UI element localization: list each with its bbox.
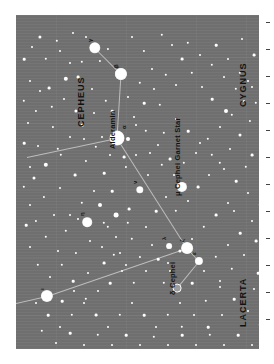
field-star xyxy=(72,32,74,34)
field-star xyxy=(95,314,98,317)
field-star xyxy=(171,44,173,46)
field-star xyxy=(53,214,55,216)
field-star xyxy=(239,134,242,137)
field-star xyxy=(85,298,87,300)
field-star xyxy=(35,302,37,304)
field-star xyxy=(191,72,193,74)
field-star xyxy=(219,126,221,128)
field-star xyxy=(107,226,109,228)
field-star xyxy=(75,252,77,254)
field-star xyxy=(187,200,189,202)
field-star xyxy=(135,154,137,156)
field-star xyxy=(253,288,255,290)
axis-tick xyxy=(266,22,270,23)
field-star xyxy=(161,164,163,166)
field-star xyxy=(231,268,233,270)
field-star xyxy=(37,264,39,266)
field-star xyxy=(131,238,133,240)
field-star xyxy=(33,177,36,180)
star-label-greek: α xyxy=(121,125,127,129)
field-star xyxy=(38,35,41,38)
field-star xyxy=(175,210,177,212)
star-8 xyxy=(41,290,52,301)
field-star xyxy=(215,214,218,217)
field-star xyxy=(211,64,213,66)
axis-tick xyxy=(266,292,270,293)
field-star xyxy=(251,86,253,88)
star-2 xyxy=(115,68,126,79)
field-star xyxy=(119,252,121,254)
field-star xyxy=(109,282,112,285)
field-star xyxy=(253,54,256,57)
star-4 xyxy=(137,187,143,193)
star-label-name: δ Cephei xyxy=(168,262,177,295)
field-star xyxy=(233,210,235,212)
field-star xyxy=(69,62,71,64)
field-star xyxy=(77,218,79,220)
field-star xyxy=(125,334,128,337)
gridline-horizontal xyxy=(16,257,259,258)
field-star xyxy=(223,168,225,170)
field-star xyxy=(63,98,65,100)
field-star xyxy=(145,226,147,228)
field-star xyxy=(211,98,214,101)
field-star xyxy=(195,344,197,346)
field-star xyxy=(181,334,184,337)
constellation-line xyxy=(47,248,187,297)
field-star xyxy=(128,208,131,211)
field-star xyxy=(131,36,133,38)
field-star xyxy=(224,109,228,113)
field-star xyxy=(181,58,184,61)
field-star xyxy=(127,96,129,98)
field-star xyxy=(111,190,114,193)
field-star xyxy=(249,120,251,122)
field-star xyxy=(151,68,153,70)
field-star xyxy=(27,122,29,124)
field-star xyxy=(143,102,146,105)
field-star xyxy=(87,272,89,274)
field-star xyxy=(23,100,25,102)
field-star xyxy=(139,82,141,84)
field-star xyxy=(44,163,48,167)
field-star xyxy=(209,334,211,336)
field-star xyxy=(61,300,64,303)
field-star xyxy=(255,240,258,243)
field-star xyxy=(147,174,149,176)
field-star xyxy=(93,190,95,192)
field-star xyxy=(143,314,146,317)
field-star xyxy=(175,84,177,86)
field-star xyxy=(145,130,147,132)
field-star xyxy=(219,280,221,282)
field-star xyxy=(69,136,71,138)
field-star xyxy=(201,86,203,88)
field-star xyxy=(237,334,240,337)
field-star xyxy=(223,76,225,78)
field-star xyxy=(111,344,113,346)
field-star xyxy=(101,136,103,138)
field-star xyxy=(153,88,155,90)
field-star xyxy=(207,326,210,329)
field-star xyxy=(149,152,151,154)
axis-tick xyxy=(266,319,270,320)
field-star xyxy=(199,142,201,144)
field-star xyxy=(48,87,51,90)
field-star xyxy=(127,222,129,224)
gridline-vertical xyxy=(56,15,57,349)
field-star xyxy=(221,314,223,316)
field-star xyxy=(131,302,133,304)
field-star xyxy=(227,58,229,60)
field-star xyxy=(231,114,233,116)
field-star xyxy=(229,148,231,150)
field-star xyxy=(25,224,28,227)
field-star xyxy=(37,145,39,147)
axis-tick xyxy=(266,49,270,50)
star-label-greek: ζ xyxy=(179,239,185,242)
field-star xyxy=(215,44,218,47)
field-star xyxy=(109,154,111,156)
field-star xyxy=(69,332,72,335)
field-star xyxy=(49,276,51,278)
field-star xyxy=(155,210,158,213)
field-star xyxy=(165,196,167,198)
field-star xyxy=(247,192,249,194)
field-star xyxy=(151,244,153,246)
